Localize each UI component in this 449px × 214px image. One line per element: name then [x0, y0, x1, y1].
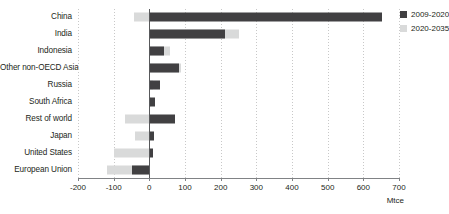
x-tick-label-300: 300	[250, 183, 263, 192]
bar-2009-2020	[149, 81, 160, 90]
x-axis-unit-label: Mtce	[387, 196, 404, 205]
bar-group	[78, 161, 399, 178]
category-label-united-states: United States	[0, 148, 72, 157]
x-tick-100	[185, 178, 186, 181]
category-label-south-africa: South Africa	[0, 97, 72, 106]
x-tick-label-0: 0	[147, 183, 151, 192]
category-label-india: India	[0, 29, 72, 38]
bar-2020-2035	[125, 114, 149, 123]
bar-2020-2035	[135, 131, 149, 140]
x-tick-label--200: -200	[70, 183, 86, 192]
category-label-indonesia: Indonesia	[0, 46, 72, 55]
bar-2020-2035	[134, 13, 149, 22]
x-tick-600	[363, 178, 364, 181]
x-tick-label-100: 100	[178, 183, 191, 192]
bar-group	[78, 144, 399, 161]
category-label-other-non-oecd-asia: Other non-OECD Asia	[0, 63, 72, 72]
x-tick-label-500: 500	[321, 183, 334, 192]
x-tick-400	[292, 178, 293, 181]
bar-2009-2020	[132, 165, 149, 174]
x-tick--200	[78, 178, 79, 181]
x-tick-label-400: 400	[285, 183, 298, 192]
x-tick-200	[221, 178, 222, 181]
bar-group	[78, 77, 399, 94]
bar-2009-2020	[149, 30, 225, 39]
category-label-russia: Russia	[0, 80, 72, 89]
x-tick--100	[114, 178, 115, 181]
legend-swatch-2020-2035	[400, 25, 407, 32]
bar-group	[78, 94, 399, 111]
bar-2009-2020	[149, 114, 175, 123]
legend-item-2020-2035: 2020-2035	[400, 24, 449, 33]
x-tick-label-200: 200	[214, 183, 227, 192]
x-axis-line	[78, 178, 399, 179]
category-label-japan: Japan	[0, 131, 72, 140]
bar-2020-2035	[114, 148, 149, 157]
bar-2009-2020	[149, 47, 163, 56]
bar-group	[78, 9, 399, 26]
bar-group	[78, 43, 399, 60]
category-label-rest-of-world: Rest of world	[0, 114, 72, 123]
bar-group	[78, 26, 399, 43]
legend-label-2009-2020: 2009-2020	[411, 10, 449, 19]
bar-group	[78, 60, 399, 77]
bar-group	[78, 127, 399, 144]
x-tick-0	[149, 178, 150, 181]
category-label-china: China	[0, 12, 72, 21]
bar-2009-2020	[149, 64, 178, 73]
x-tick-700	[399, 178, 400, 181]
plot-area	[78, 9, 399, 178]
legend-item-2009-2020: 2009-2020	[400, 10, 449, 19]
x-tick-label-700: 700	[392, 183, 405, 192]
legend-label-2020-2035: 2020-2035	[411, 24, 449, 33]
x-tick-label--100: -100	[106, 183, 122, 192]
category-axis-labels: ChinaIndiaIndonesiaOther non-OECD AsiaRu…	[0, 0, 72, 214]
chart-legend: 2009-2020 2020-2035	[400, 10, 449, 38]
x-tick-500	[328, 178, 329, 181]
x-tick-label-600: 600	[357, 183, 370, 192]
legend-swatch-2009-2020	[400, 11, 407, 18]
zero-axis-line	[149, 9, 150, 178]
bar-group	[78, 110, 399, 127]
bar-2009-2020	[149, 13, 382, 22]
category-label-european-union: European Union	[0, 165, 72, 174]
x-tick-300	[256, 178, 257, 181]
